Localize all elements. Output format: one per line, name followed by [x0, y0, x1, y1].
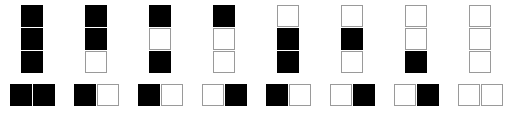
pair-group-7[interactable]: [384, 80, 448, 106]
stack-column-3[interactable]: [128, 0, 192, 74]
stack-column-4[interactable]: [192, 0, 256, 74]
stack-cell-8-3[interactable]: [469, 51, 491, 73]
stack-cell-7-2[interactable]: [405, 28, 427, 50]
pair-cell-8-2[interactable]: [481, 84, 503, 106]
stack-column-8[interactable]: [448, 0, 512, 74]
pair-cell-5-2[interactable]: [289, 84, 311, 106]
pair-cell-2-1[interactable]: [74, 84, 96, 106]
pair-cell-4-2[interactable]: [225, 84, 247, 106]
pair-cell-1-2[interactable]: [33, 84, 55, 106]
pair-cell-1-1[interactable]: [10, 84, 32, 106]
stack-cell-3-2[interactable]: [149, 28, 171, 50]
pair-group-2[interactable]: [64, 80, 128, 106]
pair-cell-4-1[interactable]: [202, 84, 224, 106]
pair-cell-6-2[interactable]: [353, 84, 375, 106]
stack-cell-8-1[interactable]: [469, 5, 491, 27]
stack-column-5[interactable]: [256, 0, 320, 74]
stack-cell-6-1[interactable]: [341, 5, 363, 27]
pair-cell-7-1[interactable]: [394, 84, 416, 106]
pair-cell-8-1[interactable]: [458, 84, 480, 106]
stack-cell-1-2[interactable]: [21, 28, 43, 50]
stack-cell-2-1[interactable]: [85, 5, 107, 27]
pair-group-5[interactable]: [256, 80, 320, 106]
pair-group-1[interactable]: [0, 80, 64, 106]
stack-cell-2-2[interactable]: [85, 28, 107, 50]
pair-row: [0, 80, 512, 113]
pair-group-6[interactable]: [320, 80, 384, 106]
stack-column-7[interactable]: [384, 0, 448, 74]
stack-cell-4-3[interactable]: [213, 51, 235, 73]
stack-cell-6-3[interactable]: [341, 51, 363, 73]
stack-row: [0, 0, 512, 76]
stack-cell-4-2[interactable]: [213, 28, 235, 50]
stack-cell-5-1[interactable]: [277, 5, 299, 27]
stack-cell-1-3[interactable]: [21, 51, 43, 73]
pair-cell-7-2[interactable]: [417, 84, 439, 106]
pair-cell-6-1[interactable]: [330, 84, 352, 106]
pair-cell-3-2[interactable]: [161, 84, 183, 106]
pair-group-4[interactable]: [192, 80, 256, 106]
stack-column-1[interactable]: [0, 0, 64, 74]
stack-column-2[interactable]: [64, 0, 128, 74]
stack-cell-8-2[interactable]: [469, 28, 491, 50]
stack-cell-3-3[interactable]: [149, 51, 171, 73]
stack-cell-7-1[interactable]: [405, 5, 427, 27]
stack-cell-7-3[interactable]: [405, 51, 427, 73]
pair-cell-3-1[interactable]: [138, 84, 160, 106]
pair-group-3[interactable]: [128, 80, 192, 106]
pair-cell-2-2[interactable]: [97, 84, 119, 106]
stack-cell-6-2[interactable]: [341, 28, 363, 50]
stack-cell-4-1[interactable]: [213, 5, 235, 27]
figure-root: [0, 0, 512, 113]
stack-cell-5-2[interactable]: [277, 28, 299, 50]
pair-cell-5-1[interactable]: [266, 84, 288, 106]
stack-cell-1-1[interactable]: [21, 5, 43, 27]
pair-group-8[interactable]: [448, 80, 512, 106]
stack-column-6[interactable]: [320, 0, 384, 74]
stack-cell-5-3[interactable]: [277, 51, 299, 73]
stack-cell-3-1[interactable]: [149, 5, 171, 27]
stack-cell-2-3[interactable]: [85, 51, 107, 73]
